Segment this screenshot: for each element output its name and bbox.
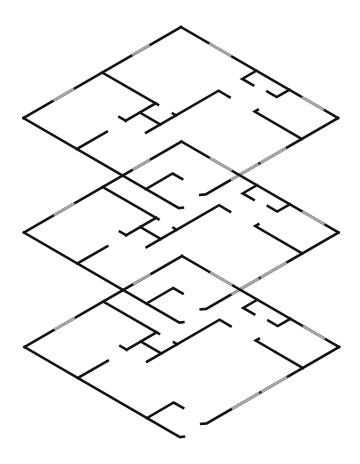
window-mullion (259, 391, 262, 394)
closet-bracket-2 (268, 319, 290, 326)
central-long-wall (147, 205, 231, 247)
front-left-partition (78, 361, 108, 378)
hall-stub-end (119, 117, 125, 121)
window-top-right-2 (302, 212, 324, 225)
closet-bracket-2 (267, 90, 289, 97)
central-wall-tick (173, 228, 176, 230)
closet-bracket-1 (242, 71, 256, 86)
window-top-left-1 (133, 274, 150, 284)
closet-bracket-1 (243, 300, 257, 315)
window-top-left-2 (54, 318, 75, 330)
entry-bracket (147, 288, 183, 304)
right-room-partition (255, 110, 302, 139)
central-long-wall (146, 91, 230, 133)
outer-front-left-wall (25, 347, 184, 437)
hall-stub-tick (140, 227, 160, 239)
floor-2-middle (24, 142, 339, 323)
window-top-left-2 (53, 89, 74, 101)
hall-stub-tick (140, 113, 160, 125)
window-mullion (258, 277, 261, 280)
window-top-left-2 (54, 203, 75, 215)
outer-front-left-wall (24, 118, 183, 208)
window-mullion (258, 162, 261, 165)
window-top-right-2 (302, 97, 324, 110)
window-top-right-1 (210, 272, 232, 285)
window-top-right-2 (303, 326, 325, 339)
floor-1-top (24, 27, 339, 208)
floor-3-bottom (25, 256, 340, 437)
front-left-partition (77, 132, 107, 149)
central-wall-tick (173, 114, 176, 116)
hall-stub-end (120, 346, 126, 350)
closet-bracket-1 (243, 185, 257, 200)
entry-bracket (147, 403, 183, 419)
hall-stub-tick (141, 342, 161, 354)
window-top-right-1 (209, 43, 231, 56)
hall-stub-end (120, 232, 126, 236)
closet-bracket-2 (268, 204, 290, 211)
central-wall-tick (174, 342, 177, 344)
window-top-left-1 (133, 160, 150, 170)
central-long-wall (147, 320, 231, 362)
isometric-floor-plan-diagram (0, 0, 360, 464)
entry-bracket (146, 174, 182, 190)
front-left-partition (77, 246, 107, 263)
window-top-right-1 (210, 158, 232, 171)
left-room-partition (102, 73, 158, 105)
floors-group (24, 27, 340, 437)
outer-front-left-wall (24, 233, 183, 323)
right-room-partition (256, 339, 303, 368)
window-top-left-1 (132, 45, 149, 55)
right-room-partition (255, 224, 302, 253)
